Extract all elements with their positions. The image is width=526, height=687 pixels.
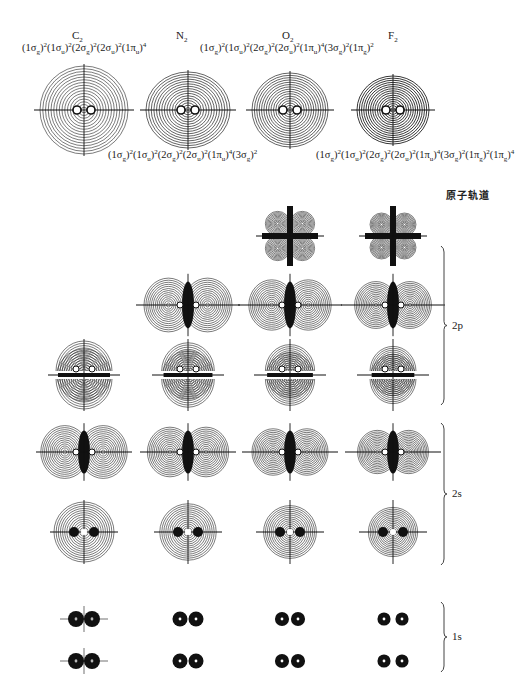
orbital-contour-sigma xyxy=(154,500,222,564)
orbital-contour-pi_vertical xyxy=(140,423,236,481)
total-density-contour xyxy=(140,70,236,150)
group-label-2s: 2s xyxy=(452,487,462,499)
orbital-contour-pi_vertical xyxy=(341,274,445,336)
orbital-contour-sigma xyxy=(256,500,324,564)
orbital-contour-sigma xyxy=(359,500,427,564)
total-density-contour xyxy=(246,71,334,149)
brace-2s xyxy=(440,423,452,565)
orbital-contour-split_h xyxy=(254,339,326,411)
orbital-contour-pi_vertical xyxy=(36,423,132,481)
orbital-contour-core xyxy=(377,654,408,667)
orbital-contour-core xyxy=(172,611,203,626)
orbital-contour-core xyxy=(275,612,305,626)
orbital-contour-core xyxy=(60,606,108,632)
brace-1s xyxy=(440,602,452,672)
orbital-contour-split_h xyxy=(152,339,224,411)
orbital-contour-clover xyxy=(359,206,427,266)
orbital-contour-pi_vertical xyxy=(242,423,338,481)
orbital-contour-split_h xyxy=(357,339,429,411)
brace-2p xyxy=(440,246,452,405)
orbital-contour-core xyxy=(172,653,203,668)
orbital-contour-pi_vertical xyxy=(136,274,240,336)
orbital-contour-core xyxy=(377,612,408,625)
orbital-contour-clover xyxy=(256,206,324,266)
orbital-contour-pi_vertical xyxy=(238,274,342,336)
orbital-contour-core xyxy=(60,648,108,674)
total-density-contour xyxy=(34,64,134,156)
orbital-contour-split_h xyxy=(48,339,120,411)
group-label-2p: 2p xyxy=(452,319,463,331)
orbital-contour-core xyxy=(275,654,305,668)
orbital-contour-pi_vertical xyxy=(345,423,441,481)
orbital-contour-sigma xyxy=(50,500,118,564)
total-density-contour xyxy=(351,74,435,146)
group-label-1s: 1s xyxy=(452,630,462,642)
